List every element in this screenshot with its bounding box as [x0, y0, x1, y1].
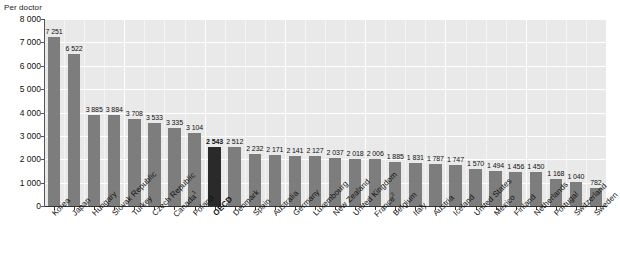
bar-value-label: 2 141	[286, 147, 303, 154]
y-axis-tick-label: 8 000	[0, 14, 41, 24]
bar-value-label: 3 104	[186, 124, 203, 131]
y-axis-tick-mark	[41, 42, 45, 43]
bar-value-label: 6 522	[66, 45, 83, 52]
y-axis-tick-label: 6 000	[0, 61, 41, 71]
y-axis-tick-mark	[41, 113, 45, 114]
gridline-vertical-minor	[405, 19, 406, 206]
bar	[429, 164, 441, 206]
bar-value-label: 1 831	[407, 154, 424, 161]
bar-value-label: 2 127	[306, 147, 323, 154]
y-axis-tick-mark	[41, 66, 45, 67]
bar-rect	[68, 54, 80, 206]
bar-value-label: 1 787	[427, 155, 444, 162]
bar	[148, 123, 160, 206]
gridline-vertical-minor	[526, 19, 527, 206]
gridline-vertical-minor	[445, 19, 446, 206]
gridline-vertical-minor	[345, 19, 346, 206]
gridline-vertical-minor	[425, 19, 426, 206]
gridline-vertical-minor	[305, 19, 306, 206]
gridline-vertical-minor	[486, 19, 487, 206]
y-axis-tick-mark	[41, 89, 45, 90]
bar	[269, 155, 281, 206]
y-axis-tick-label: 4 000	[0, 108, 41, 118]
gridline-vertical-minor	[466, 19, 467, 206]
bar	[48, 37, 60, 206]
gridline-vertical-minor	[265, 19, 266, 206]
y-axis-tick-mark	[41, 159, 45, 160]
gridline-vertical-minor	[225, 19, 226, 206]
bar	[68, 54, 80, 206]
bar-value-label: 3 884	[106, 106, 123, 113]
bar-value-label: 1 168	[547, 170, 564, 177]
y-axis-tick-label: 7 000	[0, 37, 41, 47]
bar-value-label: 3 708	[126, 110, 143, 117]
bar-value-label: 2 512	[226, 138, 243, 145]
bar-value-label: 2 171	[266, 146, 283, 153]
y-axis-tick-mark	[41, 136, 45, 137]
y-axis-tick-label: 0	[0, 201, 41, 211]
bar-value-label: 2 018	[347, 150, 364, 157]
gridline-vertical-minor	[546, 19, 547, 206]
gridline-vertical-minor	[325, 19, 326, 206]
bar-chart: Per doctor 01 0002 0003 0004 0005 0006 0…	[0, 0, 620, 278]
y-axis-tick-label: 5 000	[0, 84, 41, 94]
bar-value-label: 7 251	[46, 28, 63, 35]
bar-value-label: 1 450	[527, 163, 544, 170]
y-axis-tick-mark	[41, 19, 45, 20]
bar-value-label: 3 335	[166, 119, 183, 126]
gridline-vertical-minor	[164, 19, 165, 206]
bar-value-label: 2 543	[206, 138, 223, 145]
bar-value-label: 1 747	[447, 156, 464, 163]
y-axis-tick-mark	[41, 183, 45, 184]
y-axis-tick-mark	[41, 206, 45, 207]
y-axis-tick-label: 2 000	[0, 154, 41, 164]
gridline-vertical-minor	[205, 19, 206, 206]
bar-rect	[429, 164, 441, 206]
bar-value-label: 3 533	[146, 114, 163, 121]
bar-value-label: 2 232	[246, 145, 263, 152]
bar-value-label: 2 006	[367, 150, 384, 157]
gridline-vertical-minor	[285, 19, 286, 206]
y-axis-tick-label: 3 000	[0, 131, 41, 141]
bar-value-label: 1 570	[467, 160, 484, 167]
gridline-vertical-minor	[245, 19, 246, 206]
bar-value-label: 1 885	[387, 153, 404, 160]
bar-rect	[269, 155, 281, 206]
bar-value-label: 3 885	[86, 106, 103, 113]
bar-value-label: 2 037	[327, 149, 344, 156]
bar-value-label: 1 494	[487, 162, 504, 169]
bar-value-label: 1 456	[507, 163, 524, 170]
bar-rect	[48, 37, 60, 206]
gridline-vertical-minor	[586, 19, 587, 206]
y-axis-tick-label: 1 000	[0, 178, 41, 188]
bar	[88, 115, 100, 206]
bar-rect	[148, 123, 160, 206]
bar-rect	[88, 115, 100, 206]
bar-value-label: 1 040	[567, 173, 584, 180]
y-axis-unit-label: Per doctor	[4, 3, 42, 12]
